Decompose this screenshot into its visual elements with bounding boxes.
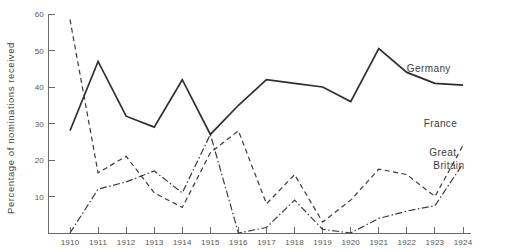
y-axis: 605040302010 (35, 10, 55, 233)
series-label-great-britain-line1: Great (429, 147, 456, 158)
x-tick-label: 1920 (341, 238, 360, 247)
x-tick-label: 1918 (285, 238, 304, 247)
series-line-germany (70, 49, 463, 135)
series-label-germany: Germany (407, 63, 451, 74)
series-label-great-britain-line2: Britain (433, 160, 464, 171)
x-tick-label: 1914 (173, 238, 192, 247)
y-tick-label: 10 (35, 193, 45, 202)
line-chart-svg: 605040302010 191019111912191319141915191… (0, 0, 515, 252)
series-lines (70, 19, 463, 233)
y-tick-label: 20 (35, 156, 45, 165)
x-tick-label: 1922 (398, 238, 417, 247)
y-axis-title: Percentage of nominations received (5, 42, 16, 214)
x-tick-label: 1917 (257, 238, 276, 247)
x-tick-label: 1913 (145, 238, 164, 247)
x-tick-label: 1919 (313, 238, 332, 247)
x-tick-label: 1911 (89, 238, 107, 247)
series-line-france (70, 19, 463, 222)
x-tick-label: 1915 (201, 238, 220, 247)
y-tick-label: 30 (35, 120, 45, 129)
chart-container: 605040302010 191019111912191319141915191… (0, 0, 515, 252)
x-tick-label: 1916 (229, 238, 248, 247)
series-labels: GermanyFranceGreatBritain (407, 63, 465, 171)
x-tick-label: 1912 (117, 238, 136, 247)
y-tick-label: 50 (35, 47, 45, 56)
y-tick-label: 60 (35, 10, 45, 19)
series-line-great-britain (70, 134, 463, 233)
x-tick-label: 1923 (426, 238, 445, 247)
x-tick-label: 1921 (369, 238, 388, 247)
x-axis: 1910191119121913191419151916191719181919… (48, 227, 473, 247)
x-tick-label: 1924 (454, 238, 473, 247)
y-tick-label: 40 (35, 83, 45, 92)
x-tick-label: 1910 (61, 238, 80, 247)
series-label-france: France (424, 118, 458, 129)
